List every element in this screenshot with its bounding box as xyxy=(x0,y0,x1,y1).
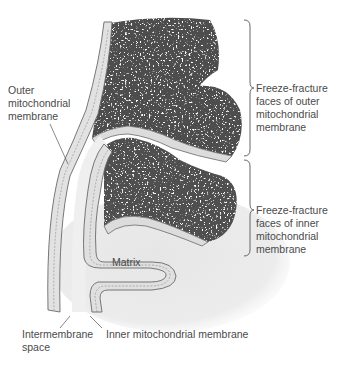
brace-outer-fracture xyxy=(244,20,254,156)
inner-membrane-label: Inner mitochondrial membrane xyxy=(106,328,248,341)
mitochondrion-diagram xyxy=(0,0,349,368)
outer-membrane-label: Outer mitochondrial membrane xyxy=(8,84,70,123)
inner-fracture-face-label: Freeze-fracture faces of inner mitochond… xyxy=(256,204,328,256)
outer-fracture-face-label: Freeze-fracture faces of outer mitochond… xyxy=(256,82,328,134)
matrix-label: Matrix xyxy=(112,256,141,269)
intermembrane-space-label: Intermembrane space xyxy=(22,328,93,354)
